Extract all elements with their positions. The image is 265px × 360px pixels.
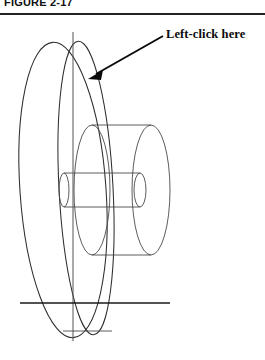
technical-drawing <box>0 0 265 360</box>
annotation-arrowhead-icon <box>88 70 103 80</box>
annotation-label: Left-click here <box>166 27 245 42</box>
shaft-front-face-ellipse <box>59 173 69 207</box>
figure-container: FIGURE 2-17 Left-click here <box>0 0 265 360</box>
shaft-back-face-ellipse <box>134 173 146 207</box>
annotation-leader-line <box>96 36 163 74</box>
hub-front-face-ellipse <box>74 125 110 255</box>
hub-back-face-ellipse <box>132 125 170 255</box>
